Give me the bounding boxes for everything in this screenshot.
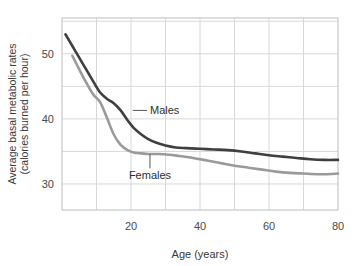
series-label-females: Females <box>129 169 172 181</box>
y-axis-title: Average basal metabolic rates (calories … <box>6 43 30 184</box>
x-tick-label: 60 <box>263 220 275 232</box>
series-line-males <box>65 34 338 160</box>
y-axis-tick-labels: 304050 <box>42 48 54 190</box>
x-tick-label: 40 <box>194 220 206 232</box>
y-axis-title-line-1: Average basal metabolic rates <box>6 43 18 184</box>
x-tick-label: 20 <box>125 220 137 232</box>
series-line-females <box>72 56 338 175</box>
y-axis-title-line-2: (calories burned per hour) <box>18 54 30 175</box>
series-label-males: Males <box>150 104 180 116</box>
y-tick-label: 30 <box>42 178 54 190</box>
chart-figure: 304050 20406080 MalesFemales Age (years)… <box>0 0 355 266</box>
y-tick-label: 50 <box>42 48 54 60</box>
x-tick-label: 80 <box>332 220 344 232</box>
series-curves <box>65 34 338 174</box>
x-axis-title: Age (years) <box>172 248 229 260</box>
y-tick-label: 40 <box>42 113 54 125</box>
x-axis-tick-labels: 20406080 <box>125 220 344 232</box>
metabolic-rate-line-chart: 304050 20406080 MalesFemales Age (years)… <box>0 0 355 266</box>
grid-lines <box>62 18 338 210</box>
